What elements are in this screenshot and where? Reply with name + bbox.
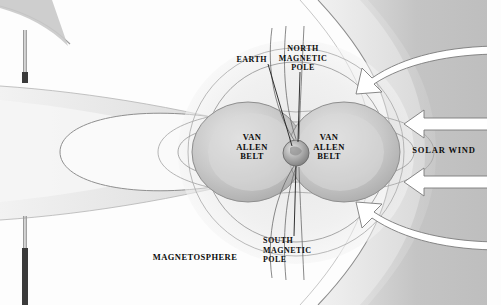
magnetosphere-diagram: EARTH NORTH MAGNETIC POLE VAN ALLEN BELT… bbox=[0, 0, 501, 305]
label-south-magnetic-pole: SOUTH MAGNETIC POLE bbox=[263, 236, 325, 265]
label-van-allen-belt-left: VAN ALLEN BELT bbox=[228, 133, 276, 162]
label-van-allen-belt-right: VAN ALLEN BELT bbox=[305, 133, 353, 162]
label-solar-wind: SOLAR WIND bbox=[405, 146, 483, 156]
right-margin-strip bbox=[487, 0, 501, 305]
label-magnetosphere: MAGNETOSPHERE bbox=[146, 253, 244, 263]
label-earth: EARTH bbox=[219, 55, 267, 65]
label-north-magnetic-pole: NORTH MAGNETIC POLE bbox=[265, 44, 341, 73]
